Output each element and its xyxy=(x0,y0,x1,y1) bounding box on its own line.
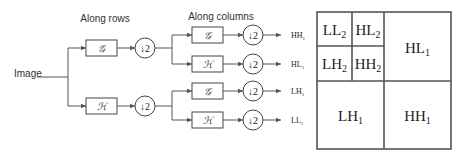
stage2-h-filter-a: ℋ xyxy=(192,56,223,72)
subband-hl1: HL1 xyxy=(405,40,430,58)
stage1-h-filter: ℋ xyxy=(86,98,117,114)
svg-text:↓2: ↓2 xyxy=(248,86,258,97)
stage2-downsampler-lh: ↓2 xyxy=(243,81,263,101)
output-label-hh1: HH1 xyxy=(291,31,306,41)
subband-lh1: LH1 xyxy=(338,108,363,126)
stage2-title: Along columns xyxy=(188,11,254,22)
output-label-hl1: HL1 xyxy=(291,60,305,70)
svg-text:↓2: ↓2 xyxy=(140,43,150,54)
output-label-lh1: LH1 xyxy=(291,87,305,97)
svg-text:↓2: ↓2 xyxy=(140,101,150,112)
stage2-downsampler-ll: ↓2 xyxy=(243,110,263,130)
subband-lh2: LH2 xyxy=(322,56,347,74)
svg-text:↓2: ↓2 xyxy=(248,59,258,70)
svg-text:↓2: ↓2 xyxy=(248,115,258,126)
subband-hh1: HH1 xyxy=(404,108,431,126)
subband-ll2: LL2 xyxy=(323,22,346,40)
stage1-lower-downsampler: ↓2 xyxy=(135,96,155,116)
output-label-ll1: LL1 xyxy=(291,116,304,126)
wavelet-decomposition-diagram: Along rows Along columns Image 𝒢 ↓2 ℋ ↓2… xyxy=(0,0,465,158)
stage2-g-filter-b: 𝒢 xyxy=(192,83,223,99)
stage2-h-filter-b: ℋ xyxy=(192,112,223,128)
stage1-upper-downsampler: ↓2 xyxy=(135,38,155,58)
svg-text:↓2: ↓2 xyxy=(248,30,258,41)
stage1-g-filter: 𝒢 xyxy=(86,40,117,56)
stage1-title: Along rows xyxy=(80,13,129,24)
stage2-downsampler-hl: ↓2 xyxy=(243,54,263,74)
stage2-downsampler-hh: ↓2 xyxy=(243,25,263,45)
subband-hl2: HL2 xyxy=(356,22,381,40)
stage2-g-filter-a: 𝒢 xyxy=(192,27,223,43)
subband-hh2: HH2 xyxy=(355,56,382,74)
